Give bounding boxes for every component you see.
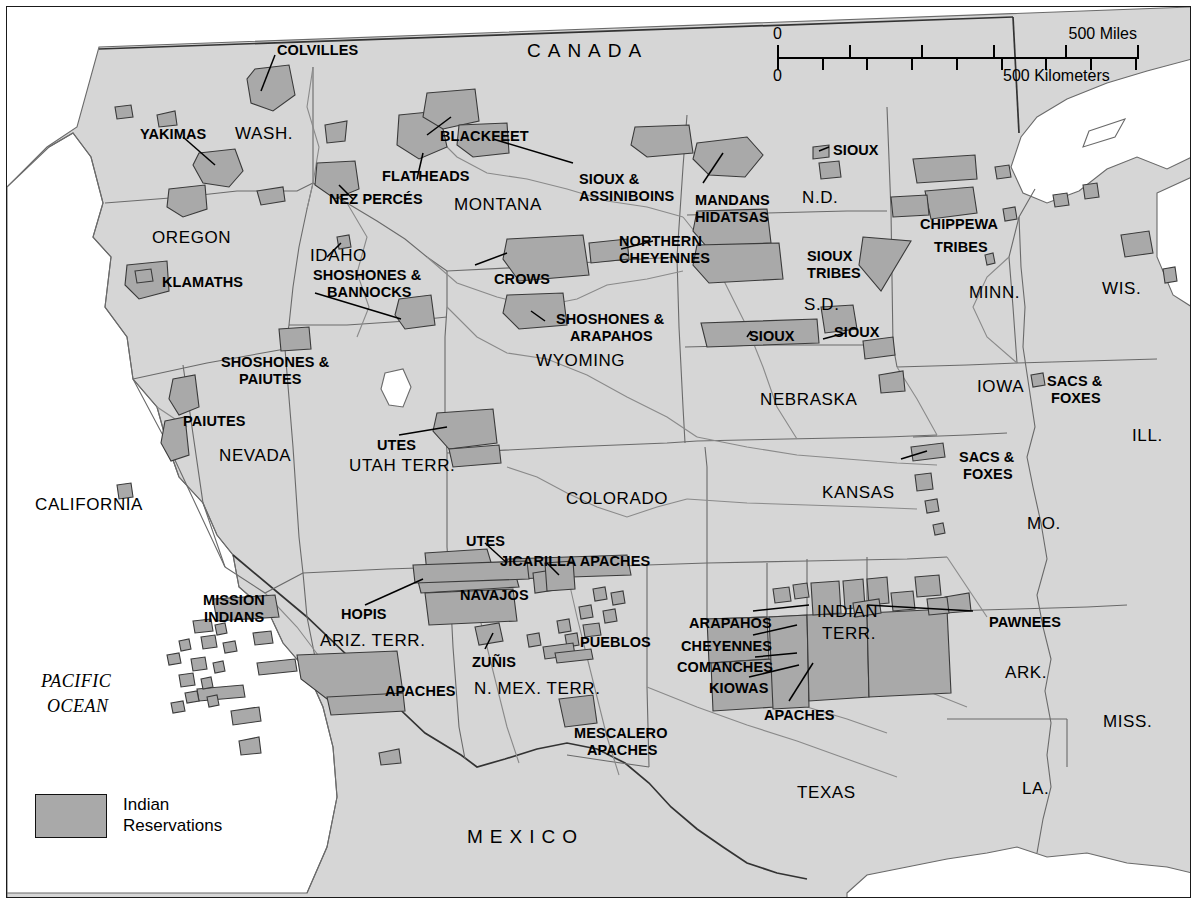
scale-tick-miles-300 [993, 45, 995, 59]
scale-tick-km-800 [1135, 57, 1137, 70]
scale-miles-max: 500 Miles [1069, 25, 1137, 43]
scale-tick-km-300 [911, 57, 913, 70]
scale-tick-miles-100 [849, 45, 851, 59]
scale-tick-km-100 [822, 57, 824, 70]
scale-km-max: 500 Kilometers [1003, 67, 1110, 85]
scale-tick-miles-200 [921, 45, 923, 59]
scale-tick-miles-500 [1137, 45, 1139, 59]
map-geography: .land { fill:#d6d6d6; stroke:#6a6a6a; st… [7, 7, 1191, 898]
legend: Indian Reservations [35, 794, 222, 838]
scale-tick-miles-400 [1065, 45, 1067, 59]
scale-miles-min: 0 [773, 25, 782, 43]
scale-tick-km-200 [866, 57, 868, 70]
scale-bar: 0 500 Miles 0 500 Kilometers [777, 31, 1137, 87]
map-frame: .land { fill:#d6d6d6; stroke:#6a6a6a; st… [6, 6, 1191, 898]
map-root: .land { fill:#d6d6d6; stroke:#6a6a6a; st… [0, 0, 1197, 904]
scale-tick-km-400 [956, 57, 958, 70]
legend-label: Indian Reservations [123, 795, 222, 836]
scale-km-min: 0 [773, 67, 782, 85]
legend-swatch-reservation [35, 794, 107, 838]
